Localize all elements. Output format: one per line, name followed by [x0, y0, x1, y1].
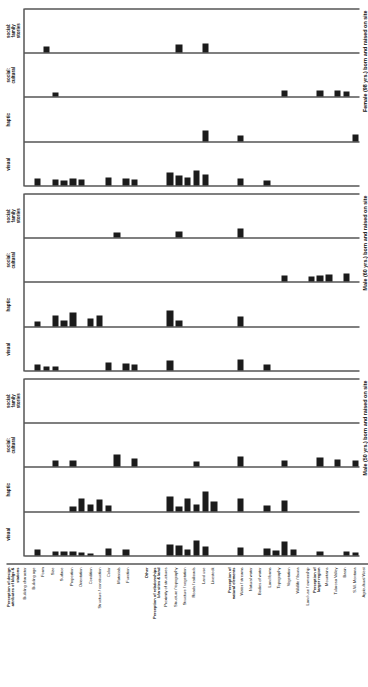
bar-cell — [183, 423, 192, 466]
bar-cell — [33, 98, 42, 141]
bar-cell — [174, 512, 183, 555]
column-header: visual — [6, 142, 22, 187]
bar-cell — [183, 98, 192, 141]
bar-cell — [262, 9, 271, 52]
row-label: Vegetation — [283, 564, 292, 681]
bar-cell — [298, 512, 307, 555]
bar-cell — [174, 194, 183, 237]
sub-column-social-cultural — [24, 423, 359, 467]
bar-cell — [306, 327, 315, 370]
bar-cell — [306, 9, 315, 52]
row-label: Form — [38, 564, 47, 681]
bar-cell — [139, 53, 148, 96]
bar-cell — [42, 142, 51, 185]
bar-cell — [324, 379, 333, 422]
column-header: social: cultural — [6, 53, 22, 98]
bar-cell — [130, 98, 139, 141]
bar-cell — [192, 194, 201, 237]
bar-cell — [77, 98, 86, 141]
bar-cell — [112, 512, 121, 555]
bar-cell — [130, 238, 139, 281]
bar-cell — [306, 512, 315, 555]
bar-cell — [342, 379, 351, 422]
bar-cell — [324, 9, 333, 52]
bar-cell — [68, 327, 77, 370]
bar-cell — [112, 327, 121, 370]
row-label: Surface — [57, 564, 66, 681]
bar-cell — [68, 9, 77, 52]
row-label: Size — [47, 564, 56, 681]
bar-cell — [139, 283, 148, 326]
bar-cell — [280, 53, 289, 96]
bar — [105, 505, 111, 511]
bar-cell — [298, 53, 307, 96]
bar-cell — [324, 468, 333, 511]
bar-cell — [68, 142, 77, 185]
panel-plot — [24, 193, 359, 371]
panel-column-headers: visualhapticsocial: culturalsocial: fami… — [6, 193, 24, 371]
bar — [60, 320, 66, 326]
bar-cell — [174, 379, 183, 422]
sub-column-social-family-stories — [24, 8, 359, 53]
bar-cell — [183, 327, 192, 370]
panel-male-50: visualhapticsocial: culturalsocial: fami… — [6, 378, 368, 556]
bar — [69, 551, 75, 555]
bar — [175, 44, 181, 53]
bar-cell — [200, 283, 209, 326]
row-label: Structure / topography — [170, 564, 179, 681]
bar-cell — [236, 468, 245, 511]
bar-cell — [139, 468, 148, 511]
bar — [202, 130, 208, 141]
bar-cell — [192, 423, 201, 466]
bar — [202, 174, 208, 185]
bar-cell — [24, 512, 33, 555]
bar — [166, 172, 172, 185]
bar-cell — [147, 238, 156, 281]
bar — [52, 315, 58, 325]
bar — [122, 363, 128, 370]
bar-cell — [156, 512, 165, 555]
bar-cell — [103, 379, 112, 422]
row-label: Livestock — [208, 564, 217, 681]
bar-cell — [68, 379, 77, 422]
panel-female-98: visualhapticsocial: culturalsocial: fami… — [6, 8, 368, 186]
column-header: social: family stories — [6, 193, 22, 238]
bar-cell — [315, 468, 324, 511]
bar-cell — [156, 379, 165, 422]
bar — [34, 364, 40, 370]
bar — [237, 498, 243, 511]
bar-cell — [209, 379, 218, 422]
bar-cell — [147, 194, 156, 237]
bar-cell — [227, 194, 236, 237]
bar-cell — [245, 283, 254, 326]
bar-cell — [333, 238, 342, 281]
bar-cell — [121, 423, 130, 466]
bar-cell — [342, 9, 351, 52]
row-label: Building age — [28, 564, 37, 681]
bar-cell — [218, 142, 227, 185]
bar — [166, 496, 172, 511]
bar-cell — [130, 379, 139, 422]
bar-cell — [280, 238, 289, 281]
bar-cell — [253, 142, 262, 185]
bar-cell — [200, 468, 209, 511]
bar-cell — [200, 98, 209, 141]
bar-cell — [156, 283, 165, 326]
bar-cell — [333, 468, 342, 511]
bar-cell — [59, 512, 68, 555]
bar-cell — [236, 194, 245, 237]
bar — [290, 549, 296, 555]
row-label: Mountains — [321, 564, 330, 681]
bar — [193, 461, 199, 466]
bar-cell — [42, 468, 51, 511]
bar-cell — [42, 9, 51, 52]
bar-cell — [333, 194, 342, 237]
bar-cell — [94, 194, 103, 237]
bar-cell — [280, 194, 289, 237]
bar-cell — [156, 142, 165, 185]
row-label: Wildlife / fauna — [293, 564, 302, 681]
bar-cell — [59, 194, 68, 237]
row-label-spacer — [217, 564, 226, 681]
bar-cell — [333, 142, 342, 185]
bar — [263, 180, 269, 185]
